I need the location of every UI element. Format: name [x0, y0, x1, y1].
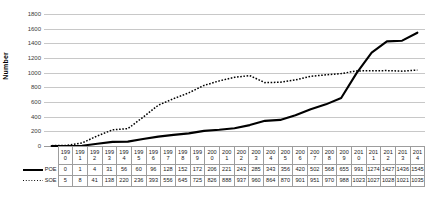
table-year-header-cell: 1998 [175, 147, 190, 165]
y-axis-tick-label: 400 [18, 114, 41, 120]
year-suffix: 3 [249, 156, 263, 162]
year-suffix: 4 [264, 156, 278, 162]
table-value-cell: 568 [322, 165, 337, 176]
table-value-cell: 128 [161, 165, 176, 176]
table-value-cell: 5 [58, 176, 73, 187]
table-year-header-cell: 2011 [366, 147, 381, 165]
table-year-header-cell: 2000 [205, 147, 220, 165]
line-chart-with-data-table: Number 180016001400120010008006004002000… [0, 0, 429, 205]
table-value-cell: 1027 [366, 176, 381, 187]
table-value-cell: 41 [87, 176, 102, 187]
y-axis-tick-label: 1800 [18, 11, 41, 17]
table-year-header-cell: 1991 [73, 147, 88, 165]
table-value-cell: 1035 [410, 176, 425, 187]
table-value-cell: 96 [146, 165, 161, 176]
y-axis-tick-label: 1000 [18, 70, 41, 76]
table-year-header-cell: 2007 [307, 147, 322, 165]
table-corner-cell [18, 147, 58, 165]
table-value-cell: 0 [58, 165, 73, 176]
table-year-header-cell: 2002 [234, 147, 249, 165]
year-suffix: 2 [381, 156, 395, 162]
table-year-header-cell: 1992 [87, 147, 102, 165]
plot-area [44, 14, 425, 146]
year-suffix: 8 [176, 156, 190, 162]
table-value-cell: 1545 [410, 165, 425, 176]
table-value-cell: 221 [219, 165, 234, 176]
y-axis-title: Number [2, 52, 16, 80]
year-suffix: 4 [117, 156, 131, 162]
table-value-cell: 970 [322, 176, 337, 187]
dotted-line-icon [23, 178, 43, 183]
y-axis-tick-label: 800 [18, 84, 41, 90]
table-value-cell: 138 [102, 176, 117, 187]
table-value-cell: 1 [73, 165, 88, 176]
table-year-header-cell: 2004 [263, 147, 278, 165]
table-value-cell: 556 [161, 176, 176, 187]
y-axis-tick-labels: 180016001400120010008006004002000 [18, 14, 41, 146]
table-value-cell: 243 [234, 165, 249, 176]
table-value-cell: 645 [175, 176, 190, 187]
table-value-cell: 4 [87, 165, 102, 176]
y-axis-tick-label: 200 [18, 128, 41, 134]
table-value-cell: 960 [249, 176, 264, 187]
table-value-cell: 1028 [381, 176, 396, 187]
table-value-cell: 502 [307, 165, 322, 176]
legend-label: POE [45, 167, 57, 173]
series-line-poe [52, 33, 418, 146]
year-suffix: 9 [191, 156, 205, 162]
table-value-cell: 937 [234, 176, 249, 187]
year-suffix: 3 [103, 156, 117, 162]
table-value-cell: 8 [73, 176, 88, 187]
year-suffix: 6 [293, 156, 307, 162]
chart-data-table: 1990199119921993199419951996199719981999… [18, 146, 425, 187]
legend-entry-soe: SOE [18, 176, 58, 187]
table-year-header-cell: 2009 [337, 147, 352, 165]
table-value-cell: 56 [117, 165, 132, 176]
table-value-cell: 1023 [351, 176, 366, 187]
table-value-cell: 655 [337, 165, 352, 176]
y-axis-tick-label: 1600 [18, 26, 41, 32]
year-suffix: 0 [352, 156, 366, 162]
table-value-cell: 393 [146, 176, 161, 187]
table-year-header-cell: 2003 [249, 147, 264, 165]
table-year-header-cell: 2001 [219, 147, 234, 165]
year-suffix: 5 [132, 156, 146, 162]
table-value-cell: 172 [190, 165, 205, 176]
table-value-cell: 343 [263, 165, 278, 176]
table-year-header-cell: 1997 [161, 147, 176, 165]
table-value-cell: 236 [131, 176, 146, 187]
series-line-soe [52, 70, 418, 146]
table-year-header-cell: 1994 [117, 147, 132, 165]
table-value-cell: 1274 [366, 165, 381, 176]
year-suffix: 1 [220, 156, 234, 162]
year-suffix: 1 [367, 156, 381, 162]
year-suffix: 7 [308, 156, 322, 162]
year-suffix: 3 [396, 156, 410, 162]
year-suffix: 5 [279, 156, 293, 162]
table-year-header-cell: 2010 [351, 147, 366, 165]
table-value-cell: 31 [102, 165, 117, 176]
table-value-cell: 220 [117, 176, 132, 187]
table-value-cell: 1427 [381, 165, 396, 176]
table-value-cell: 60 [131, 165, 146, 176]
year-suffix: 6 [147, 156, 161, 162]
solid-line-icon [23, 167, 43, 172]
year-suffix: 2 [235, 156, 249, 162]
table-year-header-cell: 2013 [395, 147, 410, 165]
table-value-cell: 991 [351, 165, 366, 176]
table-value-cell: 870 [278, 176, 293, 187]
table-value-cell: 901 [293, 176, 308, 187]
table-year-header-cell: 1999 [190, 147, 205, 165]
table-year-header-cell: 1995 [131, 147, 146, 165]
year-suffix: 7 [161, 156, 175, 162]
year-suffix: 0 [59, 156, 73, 162]
year-suffix: 1 [73, 156, 87, 162]
series-lines [44, 14, 425, 146]
table-header-row: 1990199119921993199419951996199719981999… [18, 147, 425, 165]
table-row: POE0143156609612815217220622124328534335… [18, 165, 425, 176]
table-year-header-cell: 2006 [293, 147, 308, 165]
table-value-cell: 826 [205, 176, 220, 187]
table-value-cell: 951 [307, 176, 322, 187]
year-suffix: 8 [323, 156, 337, 162]
table-value-cell: 206 [205, 165, 220, 176]
